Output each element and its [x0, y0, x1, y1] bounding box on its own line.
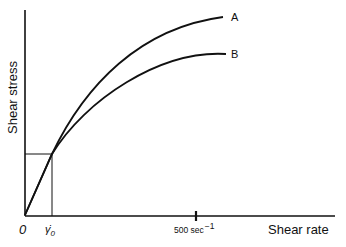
- curve-a: [25, 17, 223, 215]
- series-a-label: A: [231, 11, 239, 23]
- shear-chart: A B Shear stress 0 γ̇0 500 sec−1 Shear r…: [0, 0, 346, 247]
- tick-500-label: 500 sec−1: [174, 221, 215, 235]
- origin-label: 0: [19, 222, 27, 237]
- gamma0-label: γ̇0: [45, 223, 56, 238]
- series-b-label: B: [231, 48, 238, 60]
- curve-b: [25, 54, 226, 215]
- x-axis-label: Shear rate: [268, 222, 329, 237]
- y-axis-label: Shear stress: [5, 61, 20, 134]
